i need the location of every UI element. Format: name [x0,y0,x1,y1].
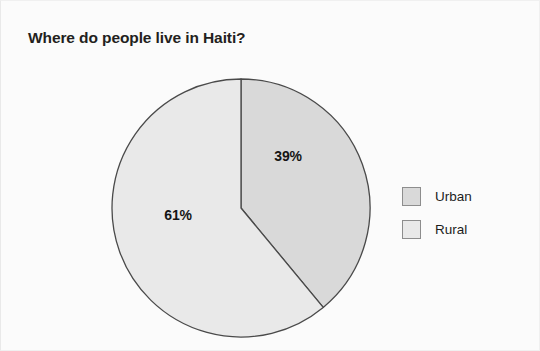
chart-canvas: Where do people live in Haiti? 39% 61% U… [0,0,540,351]
page-title: Where do people live in Haiti? [28,29,245,47]
pie-label-rural: 61% [164,207,191,223]
legend-swatch-urban [402,187,421,206]
legend-item-rural[interactable]: Rural [402,219,522,240]
legend-item-urban[interactable]: Urban [402,186,522,207]
legend-label-rural: Rural [435,222,467,237]
pie-label-urban: 39% [274,148,301,164]
legend-swatch-rural [402,220,421,239]
pie-chart [110,77,372,339]
legend-label-urban: Urban [435,189,472,204]
pie-chart-svg [110,77,372,339]
chart-legend: Urban Rural [402,186,522,252]
